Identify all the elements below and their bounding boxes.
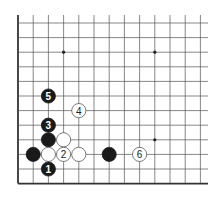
stone-disc xyxy=(41,133,55,147)
black-stone xyxy=(41,133,55,147)
star-point xyxy=(153,51,156,54)
black-stone: 5 xyxy=(41,89,55,103)
go-board-diagram: 261345 xyxy=(0,0,224,197)
move-number-label: 5 xyxy=(46,91,52,102)
black-stone: 1 xyxy=(41,162,55,176)
white-stone xyxy=(41,147,55,161)
white-stone: 2 xyxy=(57,147,71,161)
move-number-label: 4 xyxy=(76,106,82,117)
stones: 261345 xyxy=(26,89,147,176)
white-stone xyxy=(72,147,86,161)
white-stone: 4 xyxy=(72,104,86,118)
star-point xyxy=(62,51,65,54)
move-number-label: 2 xyxy=(61,149,67,160)
move-number-label: 1 xyxy=(46,164,52,175)
stone-disc xyxy=(26,147,40,161)
stone-disc xyxy=(102,147,116,161)
white-stone: 6 xyxy=(133,147,147,161)
stone-disc xyxy=(57,133,71,147)
black-stone: 3 xyxy=(41,118,55,132)
white-stone xyxy=(57,133,71,147)
move-number-label: 3 xyxy=(46,120,52,131)
black-stone xyxy=(26,147,40,161)
stone-disc xyxy=(41,147,55,161)
move-number-label: 6 xyxy=(137,149,143,160)
stone-disc xyxy=(72,147,86,161)
black-stone xyxy=(102,147,116,161)
star-point xyxy=(153,138,156,141)
